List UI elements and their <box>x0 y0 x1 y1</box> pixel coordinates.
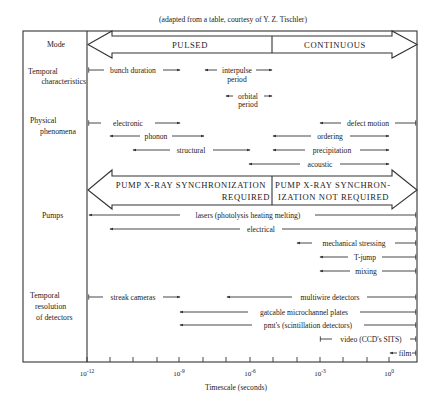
acoustic-label: acoustic <box>308 160 334 169</box>
row-label-detectors-3: of detectors <box>36 313 73 322</box>
x-axis-ticks <box>87 357 389 362</box>
mode-continuous-label: CONTINUOUS <box>304 40 366 50</box>
range-streak-cameras: streak cameras <box>89 293 180 302</box>
range-electronic: electronic <box>89 119 180 128</box>
row-label-detectors-1: Temporal <box>30 291 61 300</box>
pmt-label: pmt's (scintillation detectors) <box>264 321 353 330</box>
row-label-mode: Mode <box>47 40 66 49</box>
timescale-diagram: (adapted from a table, courtesy of Y. Z.… <box>0 0 437 411</box>
video-label: video (CCD's SITS) <box>340 335 402 344</box>
range-lasers: lasers (photolysis heating melting) <box>89 211 416 220</box>
axis-tick-label: 10-12 <box>80 368 95 378</box>
sync-not-required-line2: IZATION NOT REQUIRED <box>278 192 389 202</box>
x-axis-label: Timescale (seconds) <box>205 383 267 392</box>
sync-required-line2-label: REQUIRED <box>222 192 270 202</box>
gatcable-label: gatcable microchannel plates <box>260 308 348 317</box>
bunch-duration-label: bunch duration <box>110 66 156 75</box>
orbital-label-2: period <box>238 100 258 109</box>
range-gatcable-microchannel-plates: gatcable microchannel plates <box>180 308 416 317</box>
interpulse-label: interpulse <box>222 66 253 75</box>
mixing-label: mixing <box>355 267 377 276</box>
range-phonon: phonon <box>110 132 204 141</box>
range-electrical: electrical <box>110 225 416 234</box>
row-label-detectors-2: resolution <box>35 302 66 311</box>
axis-tick-label: 10-9 <box>173 368 185 378</box>
range-mechanical-stressing: mechanical stressing <box>297 239 416 248</box>
range-orbital-period: orbital period <box>226 92 272 110</box>
row-label-physical-1: Physical <box>30 116 57 125</box>
mechanical-stressing-label: mechanical stressing <box>322 239 385 248</box>
range-t-jump: T-jump <box>320 253 416 262</box>
axis-tick-label: 100 <box>384 368 394 378</box>
range-bunch-duration: bunch duration <box>89 66 180 75</box>
range-ordering: ordering <box>273 132 389 141</box>
t-jump-label: T-jump <box>354 253 376 262</box>
mode-double-arrow <box>88 31 417 58</box>
axis-tick-label: 10-6 <box>244 368 256 378</box>
range-video: video (CCD's SITS) <box>320 335 416 344</box>
x-axis-tick-labels: 10-1210-910-610-3100 <box>80 368 394 378</box>
electronic-label: electronic <box>113 119 144 128</box>
structural-label: structural <box>177 146 206 155</box>
sync-not-required-line1: PUMP X-RAY SYNCHRON- <box>275 180 391 190</box>
range-structural: structural <box>133 146 250 155</box>
figure-caption: (adapted from a table, courtesy of Y. Z.… <box>159 15 307 24</box>
film-label: film <box>399 349 412 358</box>
range-film: film <box>390 349 416 358</box>
sync-required-line1: PUMP X-RAY SYNCHRONIZATION <box>116 180 266 190</box>
streak-cameras-label: streak cameras <box>111 293 156 302</box>
range-multiwire-detectors: multiwire detectors <box>227 293 416 302</box>
ordering-label: ordering <box>317 132 343 141</box>
lasers-label: lasers (photolysis heating melting) <box>196 211 301 220</box>
range-precipitation: precipitation <box>273 146 389 155</box>
range-mixing: mixing <box>320 267 416 276</box>
axis-tick-label: 10-3 <box>314 368 326 378</box>
range-acoustic: acoustic <box>249 160 389 169</box>
mode-pulsed-label: PULSED <box>172 40 208 50</box>
interpulse-label-2: period <box>227 75 247 84</box>
range-interpulse-period: interpulse period <box>205 66 272 85</box>
row-label-temporal-2: characteristics <box>41 77 86 86</box>
electrical-label: electrical <box>247 225 275 234</box>
multiwire-detectors-label: multiwire detectors <box>301 293 360 302</box>
phonon-label: phonon <box>145 132 168 141</box>
row-label-temporal-1: Temporal <box>28 67 59 76</box>
precipitation-label: precipitation <box>313 146 352 155</box>
defect-motion-label: defect motion <box>347 119 389 128</box>
row-label-physical-2: phenomena <box>40 127 76 136</box>
range-defect-motion: defect motion <box>320 119 416 128</box>
row-label-pumps: Pumps <box>42 211 63 220</box>
range-pmts: pmt's (scintillation detectors) <box>180 321 416 330</box>
